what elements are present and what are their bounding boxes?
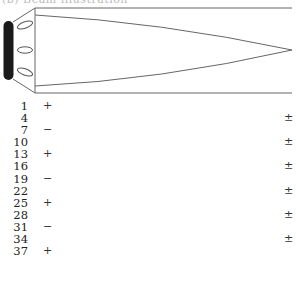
list-item: 13+	[0, 148, 296, 160]
list-item: 31−	[0, 221, 296, 233]
oval-slot-middle	[18, 47, 33, 53]
row-number: 19	[13, 173, 28, 185]
row-number: 25	[13, 197, 28, 209]
list-item: 16±	[0, 160, 296, 172]
beam-diagram	[0, 0, 296, 100]
list-item: 7−	[0, 124, 296, 136]
outer-rectangle	[35, 8, 292, 93]
tapered-inner-beam	[35, 15, 292, 86]
row-sign: −	[43, 173, 52, 185]
list-item: 25+	[0, 197, 296, 209]
oval-slot-bottom	[16, 66, 33, 77]
row-plus-minus: ±	[284, 136, 293, 148]
row-sign: +	[43, 197, 52, 209]
row-plus-minus: ±	[284, 112, 293, 124]
oval-slot-top	[16, 19, 33, 30]
row-plus-minus: ±	[284, 233, 293, 245]
row-number: 16	[13, 160, 28, 172]
row-number: 37	[13, 245, 28, 257]
row-plus-minus: ±	[284, 209, 293, 221]
row-sign: −	[43, 124, 52, 136]
row-plus-minus: ±	[284, 160, 293, 172]
row-number: 22	[13, 185, 28, 197]
row-plus-minus: ±	[284, 185, 293, 197]
row-sign: −	[43, 221, 52, 233]
list-item: 37+	[0, 245, 296, 257]
list-item: 22±	[0, 185, 296, 197]
row-sign: +	[43, 100, 52, 112]
end-cap	[4, 21, 14, 80]
list-item: 19−	[0, 173, 296, 185]
row-sign: +	[43, 245, 52, 257]
list-item: 1+	[0, 100, 296, 112]
row-sign: +	[43, 148, 52, 160]
value-list: 1+ 4± 7− 10± 13+ 16± 19− 22± 25+ 28± 31−…	[0, 100, 296, 257]
